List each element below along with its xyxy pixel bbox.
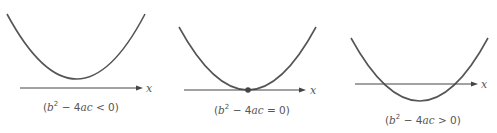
caption-relation: = 0) xyxy=(264,104,290,116)
x-axis-arrow-icon xyxy=(136,86,143,91)
parabola-crossing-axis xyxy=(351,38,488,101)
x-axis-arrow-icon xyxy=(471,82,478,87)
caption-b: b xyxy=(218,104,225,116)
caption-positive: (b2 − 4ac > 0) xyxy=(385,113,461,126)
panel-zero-discriminant: x xyxy=(179,27,317,97)
caption-text: − 4 xyxy=(58,101,80,113)
x-axis-label: x xyxy=(146,82,153,95)
caption-text: − 4 xyxy=(229,104,251,116)
caption-ac: ac xyxy=(80,101,92,113)
caption-zero: (b2 − 4ac = 0) xyxy=(214,103,290,116)
caption-text: − 4 xyxy=(400,114,422,126)
panel-positive-discriminant: x xyxy=(351,38,488,101)
x-axis-arrow-icon xyxy=(299,88,306,93)
caption-ac: ac xyxy=(422,114,434,126)
caption-negative: (b2 − 4ac < 0) xyxy=(43,100,119,113)
parabola-tangent-axis xyxy=(179,27,316,90)
caption-b: b xyxy=(47,101,54,113)
parabola-above-axis xyxy=(7,14,145,79)
caption-b: b xyxy=(389,114,396,126)
x-axis-label: x xyxy=(481,78,488,91)
caption-ac: ac xyxy=(251,104,263,116)
panel-negative-discriminant: x xyxy=(7,14,153,95)
x-axis-label: x xyxy=(310,84,317,97)
tangent-point-dot xyxy=(245,87,251,93)
caption-relation: < 0) xyxy=(93,101,119,113)
caption-relation: > 0) xyxy=(435,114,461,126)
